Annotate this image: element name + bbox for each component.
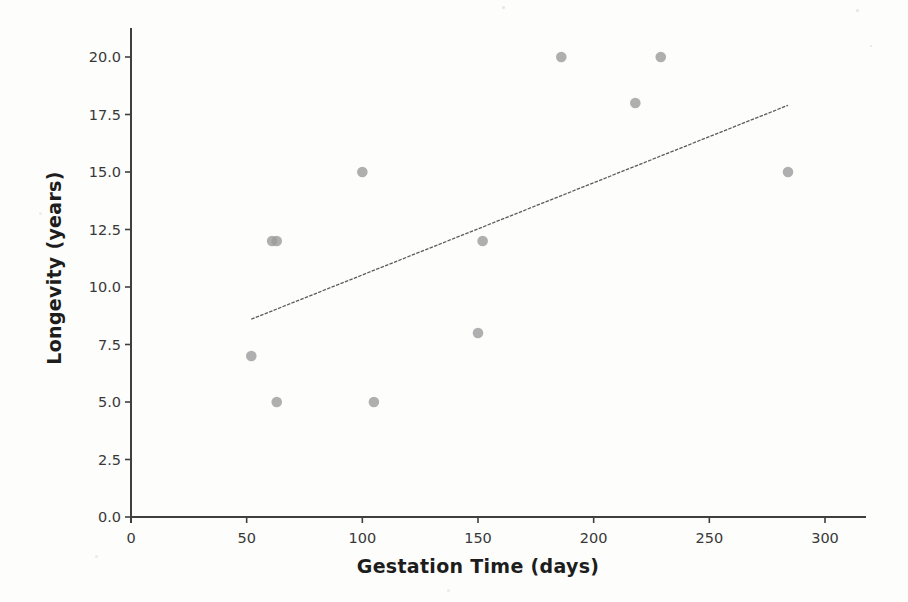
data-point: [473, 328, 484, 339]
scatter-figure: 050100150200250300 0.02.55.07.510.012.51…: [0, 0, 908, 602]
scan-speck: [95, 555, 98, 558]
data-point: [246, 351, 257, 362]
data-point: [630, 98, 641, 109]
trend-line: [251, 105, 788, 319]
chart-canvas: 050100150200250300 0.02.55.07.510.012.51…: [0, 0, 908, 602]
tick-marks: [125, 57, 825, 523]
scan-speck: [870, 45, 872, 47]
data-points: [246, 52, 793, 408]
x-tick-label: 0: [126, 530, 135, 546]
y-tick-label: 10.0: [89, 279, 121, 295]
y-tick-label: 2.5: [98, 452, 121, 468]
scan-speck: [856, 9, 859, 12]
x-tick-label: 300: [811, 530, 839, 546]
scan-speck: [705, 543, 707, 545]
y-tick-label: 5.0: [98, 394, 121, 410]
x-tick-label: 200: [580, 530, 608, 546]
page: { "chart_data": { "type": "scatter", "ti…: [0, 0, 908, 602]
x-tick-label: 250: [695, 530, 723, 546]
x-tick-label: 50: [237, 530, 255, 546]
axes: [131, 28, 866, 523]
data-point: [783, 167, 794, 178]
data-point: [271, 236, 282, 247]
y-tick-label: 12.5: [89, 222, 121, 238]
data-point: [655, 52, 666, 63]
x-tick-label: 150: [464, 530, 492, 546]
y-tick-label: 15.0: [89, 164, 121, 180]
data-point: [477, 236, 488, 247]
scan-speck: [502, 6, 505, 9]
y-axis-title: Longevity (years): [43, 171, 65, 364]
scan-speck: [447, 589, 450, 592]
y-tick-label: 20.0: [89, 49, 121, 65]
data-point: [271, 397, 282, 408]
y-tick-label: 7.5: [98, 337, 121, 353]
data-point: [357, 167, 368, 178]
data-point: [369, 397, 380, 408]
y-tick-labels: 0.02.55.07.510.012.515.017.520.0: [89, 49, 121, 525]
y-tick-label: 0.0: [98, 509, 121, 525]
x-axis-title: Gestation Time (days): [357, 555, 599, 577]
scan-speck: [39, 212, 42, 215]
y-tick-label: 17.5: [89, 107, 121, 123]
x-tick-labels: 050100150200250300: [126, 530, 838, 546]
data-point: [556, 52, 567, 63]
x-tick-label: 100: [348, 530, 376, 546]
